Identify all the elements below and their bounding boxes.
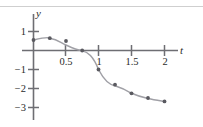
x-tick-label-1: 1	[96, 57, 101, 68]
y-axis-label: y	[36, 8, 41, 19]
y-tick-label-1: −1	[7, 65, 26, 76]
x-tick-label-2: 1.5	[125, 57, 138, 68]
figure-container: y t 0.5 1 1.5 2 1 −1 −2 −3	[0, 0, 203, 127]
y-tick-label-0: 1	[12, 27, 26, 38]
x-tick-label-3: 2	[162, 57, 167, 68]
x-tick-label-0: 0.5	[59, 57, 72, 68]
y-tick-label-2: −2	[7, 84, 26, 95]
y-tick-label-3: −3	[7, 103, 26, 114]
x-axis-label: t	[180, 45, 183, 56]
